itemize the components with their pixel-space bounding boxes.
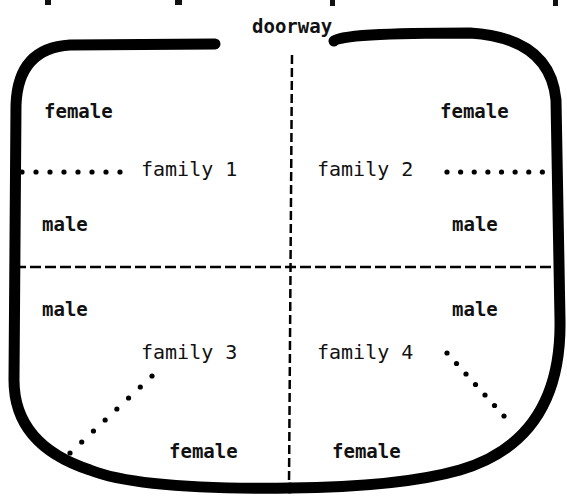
link-dot — [485, 169, 490, 174]
family-4-bottom-label: female — [332, 440, 401, 462]
family-4-top-label: male — [452, 298, 498, 320]
family-3-top-label: male — [42, 298, 88, 320]
link-dot — [482, 392, 487, 397]
link-dot — [103, 169, 108, 174]
link-dot — [553, 169, 558, 174]
link-dot — [89, 169, 94, 174]
link-dot — [91, 428, 96, 433]
link-dot — [501, 413, 506, 418]
link-dot — [513, 169, 518, 174]
link-dot — [472, 169, 477, 174]
family-2-label: family 2 — [317, 157, 413, 181]
family-4-label: family 4 — [317, 340, 413, 364]
family-1-bottom-label: male — [42, 213, 88, 235]
family-2-bottom-label: male — [452, 213, 498, 235]
link-dot — [126, 395, 131, 400]
link-dot — [454, 361, 459, 366]
link-dot — [138, 384, 143, 389]
cut-off-text-above — [45, 0, 558, 6]
doorway-label: doorway — [252, 15, 332, 37]
link-dot — [492, 403, 497, 408]
link-dot — [540, 169, 545, 174]
link-dot — [463, 371, 468, 376]
family-4-dotted-link — [444, 350, 506, 418]
link-dot — [61, 169, 66, 174]
link-dot — [149, 373, 154, 378]
link-dot — [33, 169, 38, 174]
link-dot — [526, 169, 531, 174]
link-dot — [19, 169, 24, 174]
link-dot — [103, 417, 108, 422]
link-dot — [47, 169, 52, 174]
family-3-dotted-link — [67, 373, 154, 455]
link-dot — [67, 450, 72, 455]
link-dot — [444, 169, 449, 174]
link-dot — [79, 439, 84, 444]
link-dot — [444, 350, 449, 355]
link-dot — [75, 169, 80, 174]
wall-right-segment — [290, 33, 560, 488]
family-1-dotted-link — [19, 169, 122, 174]
family-1-top-label: female — [44, 100, 113, 122]
room-diagram: doorway female family 1 male female fami… — [0, 0, 567, 496]
family-3-bottom-label: female — [169, 440, 238, 462]
family-1-label: family 1 — [141, 157, 237, 181]
link-dot — [117, 169, 122, 174]
link-dot — [473, 382, 478, 387]
family-2-top-label: female — [440, 100, 509, 122]
family-3-label: family 3 — [141, 340, 237, 364]
link-dot — [499, 169, 504, 174]
family-2-dotted-link — [444, 169, 558, 174]
link-dot — [458, 169, 463, 174]
link-dot — [114, 406, 119, 411]
vertical-divider — [289, 55, 292, 485]
